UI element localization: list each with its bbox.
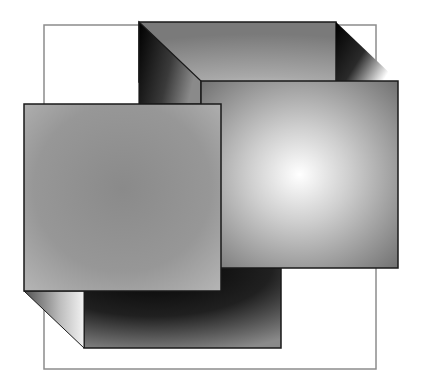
left-front-square xyxy=(24,104,221,291)
impossible-box-figure xyxy=(0,0,422,390)
illustration-canvas xyxy=(0,0,422,390)
right-front-square xyxy=(201,81,398,268)
